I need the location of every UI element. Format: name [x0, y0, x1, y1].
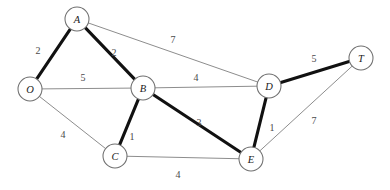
edge-weight-o-c: 4: [61, 129, 66, 140]
graph-canvas: OABCDET 227544134157: [0, 0, 390, 190]
edge-weight-c-e: 4: [176, 169, 181, 180]
graph-edge-o-c: [39, 96, 106, 149]
graph-edge-o-a: [36, 29, 70, 80]
graph-node-t: T: [349, 46, 373, 70]
edge-weight-e-t: 7: [312, 115, 317, 126]
edge-weight-b-e: 3: [197, 117, 202, 128]
node-label-o: O: [26, 84, 34, 95]
edge-weight-d-t: 5: [312, 53, 317, 64]
graph-edge-d-e: [254, 97, 266, 148]
graph-edge-o-b: [41, 88, 131, 89]
edge-weight-o-a: 2: [36, 45, 41, 56]
graph-edge-a-b: [85, 27, 135, 79]
graph-node-o: O: [18, 77, 42, 101]
graph-node-a: A: [65, 7, 89, 31]
node-label-c: C: [111, 151, 119, 162]
edge-weight-b-c: 1: [130, 131, 135, 142]
graph-node-c: C: [103, 144, 127, 168]
graph-node-e: E: [239, 147, 263, 171]
node-label-d: D: [264, 81, 273, 92]
edge-weight-b-d: 4: [194, 72, 199, 83]
graph-node-b: B: [131, 76, 155, 100]
node-label-e: E: [247, 154, 255, 165]
edge-weight-a-d: 7: [171, 34, 176, 45]
graph-edge-c-e: [126, 156, 239, 158]
graph-edge-d-t: [280, 61, 350, 82]
graph-node-d: D: [257, 74, 281, 98]
node-label-b: B: [140, 83, 147, 94]
edge-weight-o-b: 5: [81, 72, 86, 83]
edges-layer: [36, 23, 352, 159]
graph-diagram: OABCDET 227544134157: [0, 0, 390, 190]
graph-edge-b-d: [154, 86, 257, 88]
edge-weight-d-e: 1: [270, 122, 275, 133]
node-label-a: A: [73, 14, 81, 25]
edge-weight-a-b: 2: [112, 47, 117, 58]
